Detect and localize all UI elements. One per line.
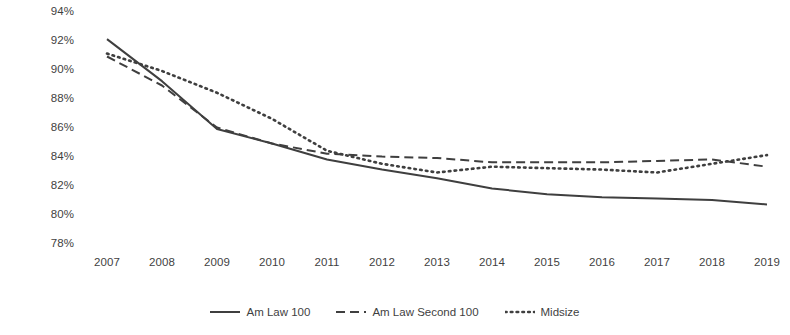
legend-label: Am Law 100 [246,306,310,318]
solid-line-swatch [210,307,240,317]
series-line [107,39,767,204]
legend-entry[interactable]: Am Law 100 [210,306,310,318]
dotted-line-swatch [505,307,535,317]
line-chart: Average 94%92%90%88%86%84%82%80%78% 2007… [0,0,790,335]
legend-label: Midsize [541,306,580,318]
plot-area [0,0,790,335]
dashed-line-swatch [336,307,366,317]
series-line [107,54,767,173]
series-line [107,57,767,167]
chart-legend: Am Law 100Am Law Second 100Midsize [0,306,790,318]
legend-label: Am Law Second 100 [372,306,478,318]
legend-entry[interactable]: Midsize [505,306,580,318]
legend-entry[interactable]: Am Law Second 100 [336,306,478,318]
